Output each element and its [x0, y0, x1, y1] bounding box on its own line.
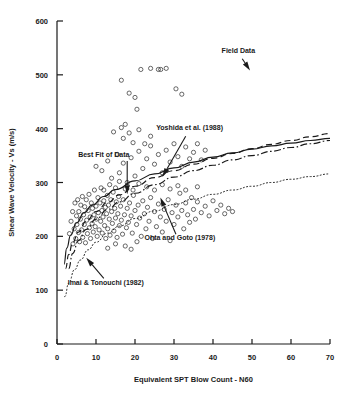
- data-point-marker: [133, 174, 137, 178]
- data-point-marker: [131, 188, 135, 192]
- annotation-yoshida-1988: Yoshida et al. (1988): [156, 124, 223, 177]
- annotation-field-data: Field Data: [222, 47, 256, 70]
- data-point-marker: [77, 209, 81, 213]
- data-point-marker: [106, 203, 110, 207]
- data-point-marker: [182, 227, 186, 231]
- data-point-marker: [131, 141, 135, 145]
- data-point-marker: [101, 215, 105, 219]
- data-point-marker: [104, 212, 108, 216]
- data-point-marker: [154, 225, 158, 229]
- data-point-marker: [145, 205, 149, 209]
- x-tick-label: 30: [170, 353, 178, 362]
- data-point-marker: [149, 144, 153, 148]
- y-tick-label: 600: [35, 17, 48, 26]
- x-tick-label: 0: [55, 353, 59, 362]
- data-point-marker: [113, 216, 117, 220]
- annotation-leader-line: [92, 265, 104, 279]
- y-tick-label: 100: [35, 286, 48, 295]
- data-point-marker: [134, 222, 138, 226]
- data-point-marker: [92, 188, 96, 192]
- annotation-arrow-head: [160, 198, 166, 207]
- data-point-marker: [199, 211, 203, 215]
- chart-canvas: 0102030405060700100200300400500600Equiva…: [0, 0, 345, 396]
- data-point-marker: [100, 169, 104, 173]
- data-point-marker: [110, 221, 114, 225]
- data-point-marker: [188, 220, 192, 224]
- data-point-marker: [89, 201, 93, 205]
- y-tick-label: 500: [35, 71, 48, 80]
- data-point-marker: [230, 209, 234, 213]
- data-point-marker: [184, 188, 188, 192]
- data-point-marker: [139, 67, 143, 71]
- data-point-marker: [125, 206, 129, 210]
- data-point-marker: [215, 208, 219, 212]
- data-point-marker: [149, 195, 153, 199]
- data-point-marker: [149, 66, 153, 70]
- figure-shear-wave-velocity-chart: 0102030405060700100200300400500600Equiva…: [0, 0, 345, 396]
- data-point-marker: [219, 203, 223, 207]
- x-tick-label: 70: [326, 353, 334, 362]
- data-point-marker: [115, 235, 119, 239]
- data-point-marker: [121, 161, 125, 165]
- data-point-marker: [119, 78, 123, 82]
- data-point-marker: [80, 194, 84, 198]
- data-point-marker: [131, 193, 135, 197]
- annotation-leader-line: [164, 206, 176, 234]
- data-point-marker: [129, 247, 133, 251]
- data-point-marker: [156, 202, 160, 206]
- data-point-marker: [211, 199, 215, 203]
- data-point-marker: [99, 186, 103, 190]
- data-point-marker: [121, 136, 125, 140]
- data-point-marker: [136, 203, 140, 207]
- data-point-marker: [85, 232, 89, 236]
- data-point-marker: [83, 205, 87, 209]
- data-point-marker: [137, 149, 141, 153]
- annotation-imai-tonouchi-1982: Imai & Tonouchi (1982): [68, 258, 144, 287]
- axes: [57, 21, 330, 344]
- data-point-marker: [164, 66, 168, 70]
- data-point-marker: [143, 142, 147, 146]
- data-point-marker: [106, 227, 110, 231]
- data-point-marker: [119, 125, 123, 129]
- data-point-marker: [164, 219, 168, 223]
- data-point-marker: [118, 204, 122, 208]
- data-point-marker: [180, 208, 184, 212]
- data-point-marker: [135, 107, 139, 111]
- data-point-marker: [191, 207, 195, 211]
- y-tick-label: 400: [35, 125, 48, 134]
- data-point-marker: [145, 157, 149, 161]
- data-point-marker: [102, 188, 106, 192]
- data-point-marker: [79, 203, 83, 207]
- data-point-marker: [117, 179, 121, 183]
- data-point-marker: [84, 198, 88, 202]
- data-point-marker: [123, 122, 127, 126]
- data-point-marker: [87, 192, 91, 196]
- data-point-marker: [117, 223, 121, 227]
- data-point-marker: [141, 166, 145, 170]
- data-point-marker: [122, 213, 126, 217]
- annotation-label-yoshida-1988: Yoshida et al. (1988): [156, 124, 223, 132]
- data-point-marker: [95, 234, 99, 238]
- data-point-marker: [116, 212, 120, 216]
- data-point-marker: [94, 164, 98, 168]
- data-point-marker: [130, 231, 134, 235]
- data-point-marker: [102, 199, 106, 203]
- x-tick-label: 10: [92, 353, 100, 362]
- data-point-marker: [139, 234, 143, 238]
- data-point-marker: [91, 230, 95, 234]
- data-point-marker: [149, 134, 153, 138]
- data-point-marker: [100, 231, 104, 235]
- data-point-marker: [174, 87, 178, 91]
- data-point-marker: [176, 215, 180, 219]
- data-point-marker: [137, 181, 141, 185]
- data-point-marker: [74, 214, 78, 218]
- data-point-marker: [152, 188, 156, 192]
- data-point-marker: [152, 162, 156, 166]
- x-axis-label: Equivalent SPT Blow Count - N60: [134, 375, 253, 384]
- data-point-marker: [207, 214, 211, 218]
- data-point-marker: [180, 92, 184, 96]
- annotation-label-imai-tonouchi-1982: Imai & Tonouchi (1982): [68, 279, 144, 287]
- data-point-marker: [111, 130, 115, 134]
- x-tick-label: 50: [248, 353, 256, 362]
- data-point-marker: [119, 218, 123, 222]
